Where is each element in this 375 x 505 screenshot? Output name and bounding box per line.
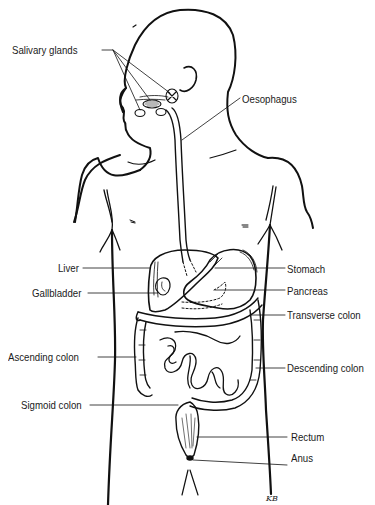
label-gallbladder: Gallbladder: [32, 287, 81, 299]
label-ascending-colon: Ascending colon: [8, 351, 79, 363]
small-intestine: [160, 331, 240, 395]
label-descending-colon: Descending colon: [287, 362, 364, 374]
artist-signature: KB: [266, 494, 278, 503]
label-sigmoid-colon: Sigmoid colon: [21, 399, 82, 411]
gallbladder: [156, 278, 170, 295]
label-rectum: Rectum: [291, 431, 324, 443]
label-liver: Liver: [58, 262, 79, 274]
label-pancreas: Pancreas: [287, 285, 328, 297]
label-oesophagus: Oesophagus: [242, 93, 297, 105]
torso-outline: [74, 150, 313, 505]
rectum: [176, 402, 199, 460]
body-illustration: [0, 0, 375, 505]
label-salivary-glands: Salivary glands: [12, 44, 78, 56]
label-transverse-colon: Transverse colon: [287, 309, 361, 321]
legs-outline: [182, 470, 198, 495]
label-anus: Anus: [291, 452, 313, 464]
stomach: [184, 250, 257, 309]
label-stomach: Stomach: [287, 263, 325, 275]
salivary-glands: [135, 89, 178, 117]
ascending-colon: [134, 318, 152, 396]
digestive-system-diagram: Salivary glands Oesophagus Liver Gallbla…: [0, 0, 375, 505]
